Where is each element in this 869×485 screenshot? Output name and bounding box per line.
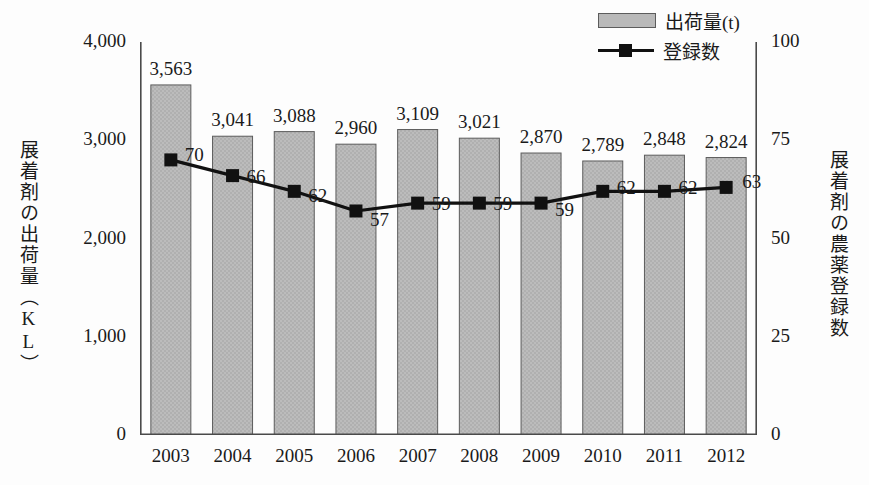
line-value-label-2011: 62 <box>678 177 697 199</box>
bar-value-label-2007: 3,109 <box>383 103 453 125</box>
line-marker-2009 <box>535 197 548 210</box>
line-marker-2006 <box>349 204 362 217</box>
bar-2007 <box>398 130 438 435</box>
right-tick-label-75: 75 <box>771 128 831 150</box>
plot-area <box>140 42 757 435</box>
chart-legend: 出荷量(t) 登録数 <box>598 8 740 62</box>
left-tick-label-2000: 2,000 <box>48 227 126 249</box>
line-marker-2011 <box>658 185 671 198</box>
line-value-label-2004: 66 <box>247 166 266 188</box>
year-label-2004: 2004 <box>202 445 264 467</box>
bar-value-label-2010: 2,789 <box>568 134 638 156</box>
bar-value-label-2008: 3,021 <box>444 111 514 133</box>
line-marker-2003 <box>164 153 177 166</box>
left-tick-label-4000: 4,000 <box>48 30 126 52</box>
bar-2008 <box>459 138 499 435</box>
line-marker-2008 <box>473 197 486 210</box>
line-value-label-2010: 62 <box>617 177 636 199</box>
plot-svg <box>140 42 757 435</box>
year-label-2005: 2005 <box>263 445 325 467</box>
left-tick-label-3000: 3,000 <box>48 128 126 150</box>
bar-2005 <box>274 132 314 435</box>
bar-value-label-2006: 2,960 <box>321 117 391 139</box>
line-marker-swatch-icon <box>598 43 654 57</box>
right-tick-label-50: 50 <box>771 227 831 249</box>
bar-value-label-2009: 2,870 <box>506 126 576 148</box>
line-value-label-2005: 62 <box>308 185 327 207</box>
year-label-2009: 2009 <box>510 445 572 467</box>
bar-2010 <box>583 161 623 435</box>
year-label-2003: 2003 <box>140 445 202 467</box>
bar-value-label-2004: 3,041 <box>198 109 268 131</box>
bar-value-label-2011: 2,848 <box>629 128 699 150</box>
legend-item-registration: 登録数 <box>598 38 740 62</box>
line-value-label-2008: 59 <box>493 193 512 215</box>
line-marker-2004 <box>226 169 239 182</box>
line-marker-2012 <box>720 181 733 194</box>
year-label-2012: 2012 <box>695 445 757 467</box>
bar-2006 <box>336 144 376 435</box>
year-label-2006: 2006 <box>325 445 387 467</box>
line-value-label-2009: 59 <box>555 199 574 221</box>
bar-2003 <box>151 85 191 435</box>
line-marker-2010 <box>596 185 609 198</box>
chart-container: 展着剤の出荷量（KL） 展着剤の農薬登録数 01,0002,0003,0004,… <box>0 0 869 485</box>
left-tick-label-1000: 1,000 <box>48 325 126 347</box>
line-marker-2007 <box>411 197 424 210</box>
year-label-2007: 2007 <box>387 445 449 467</box>
bar-value-label-2012: 2,824 <box>691 131 761 153</box>
line-value-label-2003: 70 <box>185 144 204 166</box>
legend-item-shipment: 出荷量(t) <box>598 8 740 32</box>
year-label-2008: 2008 <box>448 445 510 467</box>
legend-label-shipment: 出荷量(t) <box>665 7 740 34</box>
left-axis-title: 展着剤の出荷量（KL） <box>18 140 38 375</box>
right-tick-label-0: 0 <box>771 423 831 445</box>
bar-value-label-2003: 3,563 <box>136 58 206 80</box>
legend-label-registration: 登録数 <box>663 37 720 64</box>
line-value-label-2012: 63 <box>742 171 761 193</box>
line-marker-2005 <box>288 185 301 198</box>
right-tick-label-100: 100 <box>771 30 831 52</box>
bar-value-label-2005: 3,088 <box>259 105 329 127</box>
right-tick-label-25: 25 <box>771 325 831 347</box>
left-tick-label-0: 0 <box>48 423 126 445</box>
line-value-label-2006: 57 <box>370 209 389 231</box>
line-value-label-2007: 59 <box>432 193 451 215</box>
year-label-2010: 2010 <box>572 445 634 467</box>
bar-2009 <box>521 153 561 435</box>
bar-swatch-icon <box>598 13 656 28</box>
bar-2012 <box>706 158 746 435</box>
year-label-2011: 2011 <box>633 445 695 467</box>
